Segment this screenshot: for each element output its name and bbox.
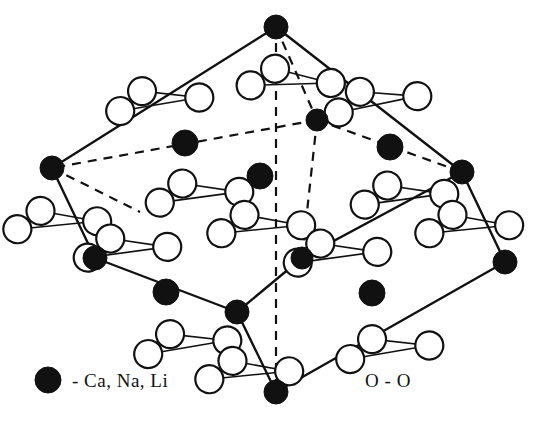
structure-canvas: - Ca, Na, Li O - O: [0, 0, 544, 429]
cation-vertex: [40, 156, 64, 180]
cation-vertex: [264, 380, 288, 404]
cation-vertex: [83, 246, 107, 270]
cation-interior: [359, 280, 385, 306]
cation-vertex: [225, 300, 249, 324]
cation-vertex: [291, 247, 313, 269]
crystal-structure-figure: - Ca, Na, Li O - O: [0, 0, 544, 429]
cation-vertex: [493, 250, 517, 274]
cation-vertex: [450, 160, 474, 184]
cation-vertex: [264, 15, 288, 39]
cation-interior: [153, 279, 179, 305]
legend-cation-label: - Ca, Na, Li: [72, 370, 168, 391]
legend-cation-icon: [35, 367, 61, 393]
legend-oxygen-label: O - O: [365, 370, 411, 391]
cation-interior: [377, 134, 403, 160]
cation-vertex: [306, 109, 328, 131]
cation-interior: [172, 130, 198, 156]
cation-interior: [247, 163, 273, 189]
